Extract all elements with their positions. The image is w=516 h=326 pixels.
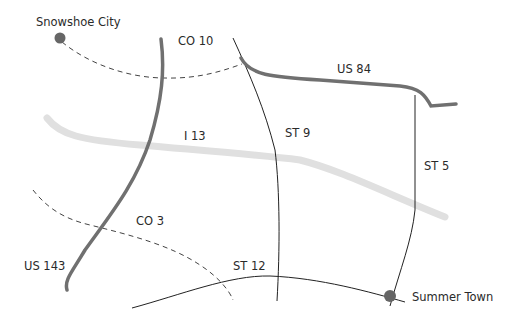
road-label-st12: ST 12 — [233, 261, 266, 273]
road-label-i13: I 13 — [184, 131, 206, 143]
road-i13[interactable] — [47, 118, 445, 217]
road-label-st9: ST 9 — [285, 128, 310, 140]
road-label-st5: ST 5 — [424, 161, 449, 173]
city-label-summer-town: Summer Town — [412, 292, 493, 304]
road-st12[interactable] — [132, 276, 405, 308]
city-dot-summer-town[interactable] — [384, 290, 396, 302]
city-label-snowshoe-city: Snowshoe City — [36, 17, 121, 29]
road-label-us84: US 84 — [337, 64, 371, 76]
road-co3[interactable] — [33, 190, 233, 300]
road-label-co3: CO 3 — [136, 216, 164, 228]
road-map: Snowshoe City Summer Town CO 10 US 84 I … — [0, 0, 516, 326]
road-co10[interactable] — [62, 42, 242, 78]
city-dot-snowshoe-city[interactable] — [55, 33, 66, 44]
road-label-co10: CO 10 — [178, 36, 213, 48]
road-label-us143: US 143 — [24, 261, 65, 273]
